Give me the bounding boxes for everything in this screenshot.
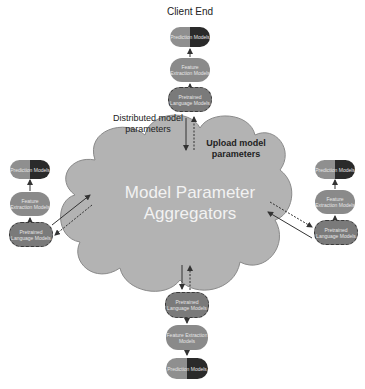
node-label: Prediction Models bbox=[10, 167, 50, 173]
cloud-title-line: Model Parameter bbox=[100, 182, 280, 203]
upload-params-label: Upload model parameters bbox=[196, 138, 276, 160]
client-end-title: Client End bbox=[150, 6, 230, 17]
right-feature-extraction-node: Feature Extraction Models bbox=[315, 190, 355, 214]
node-label: Pretrained Language Models bbox=[315, 227, 357, 239]
node-label: Prediction Models bbox=[170, 34, 210, 40]
node-label: Pretrained Language Models bbox=[10, 229, 52, 241]
left-feature-extraction-node: Feature Extraction Models bbox=[10, 192, 50, 216]
label-line: parameters bbox=[196, 149, 276, 160]
label-line: Distributed model bbox=[108, 113, 188, 124]
left-pretrained-language-node: Pretrained Language Models bbox=[9, 222, 53, 247]
node-label: Feature Extraction Models bbox=[170, 64, 210, 76]
bottom-feature-extraction-node: Feature Extraction Models bbox=[166, 325, 208, 350]
node-label: Pretrained Language Models bbox=[166, 299, 208, 311]
label-line: parameters bbox=[108, 124, 188, 135]
node-label: Prediction Models bbox=[315, 167, 355, 173]
distributed-params-label: Distributed model parameters bbox=[108, 113, 188, 135]
top-prediction-models-node: Prediction Models bbox=[170, 27, 210, 47]
node-label: Feature Extraction Models bbox=[166, 332, 208, 344]
top-pretrained-language-node: Pretrained Language Models bbox=[168, 87, 212, 112]
node-label: Feature Extraction Models bbox=[315, 196, 355, 208]
label-line: Upload model bbox=[196, 138, 276, 149]
bottom-pretrained-language-node: Pretrained Language Models bbox=[165, 292, 209, 318]
right-prediction-models-node: Prediction Models bbox=[315, 160, 355, 179]
left-prediction-models-node: Prediction Models bbox=[10, 160, 50, 179]
node-label: Feature Extraction Models bbox=[10, 198, 50, 210]
bottom-prediction-models-node: Prediction Models bbox=[166, 358, 208, 379]
node-label: Prediction Models bbox=[167, 366, 207, 372]
top-feature-extraction-node: Feature Extraction Models bbox=[170, 58, 210, 82]
node-label: Pretrained Language Models bbox=[169, 94, 211, 106]
cloud-title-line: Aggregators bbox=[100, 203, 280, 224]
right-pretrained-language-node: Pretrained Language Models bbox=[314, 220, 358, 245]
cloud-title: Model Parameter Aggregators bbox=[100, 182, 280, 224]
